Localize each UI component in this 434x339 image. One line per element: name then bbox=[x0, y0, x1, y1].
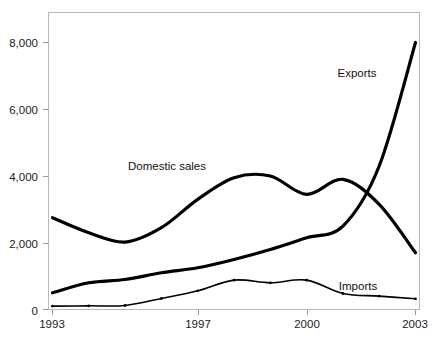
data-point-marker bbox=[196, 289, 199, 292]
data-point-marker bbox=[378, 295, 381, 298]
data-point-marker bbox=[87, 304, 90, 307]
y-axis-label-2000: 2,000 bbox=[9, 238, 38, 250]
x-axis-label-2000: 2000 bbox=[294, 318, 320, 330]
data-point-marker bbox=[269, 281, 272, 284]
data-point-marker bbox=[414, 297, 417, 300]
data-point-marker bbox=[342, 292, 345, 295]
line-chart: 8,000 6,000 4,000 2,000 0 1993 1997 2000… bbox=[0, 0, 434, 339]
series-label-exports: Exports bbox=[338, 67, 377, 79]
y-axis-label-0: 0 bbox=[32, 305, 38, 317]
data-point-marker bbox=[51, 305, 54, 308]
x-axis-label-1993: 1993 bbox=[39, 318, 65, 330]
x-axis-label-1997: 1997 bbox=[185, 318, 211, 330]
data-point-marker bbox=[124, 304, 127, 307]
data-point-marker bbox=[305, 279, 308, 282]
data-point-marker bbox=[233, 279, 236, 282]
y-axis-label-4000: 4,000 bbox=[9, 171, 38, 183]
chart-canvas: 8,000 6,000 4,000 2,000 0 1993 1997 2000… bbox=[0, 0, 434, 339]
y-axis-label-8000: 8,000 bbox=[9, 37, 38, 49]
y-axis-label-6000: 6,000 bbox=[9, 104, 38, 116]
series-label-domestic-sales: Domestic sales bbox=[128, 160, 206, 172]
series-label-imports: Imports bbox=[339, 280, 378, 292]
data-point-marker bbox=[160, 297, 163, 300]
x-axis-label-2003: 2003 bbox=[402, 318, 428, 330]
